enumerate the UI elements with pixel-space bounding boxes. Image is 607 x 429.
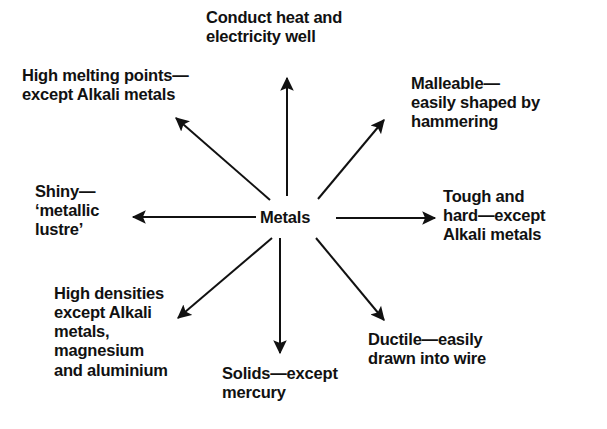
center-node-metals: Metals bbox=[256, 207, 314, 228]
node-label-shiny: Shiny— ‘metallic lustre’ bbox=[35, 182, 99, 239]
node-label-solids: Solids—except mercury bbox=[222, 364, 338, 402]
node-label-conduct: Conduct heat and electricity well bbox=[206, 8, 342, 46]
arrow-ductile bbox=[316, 238, 384, 320]
arrow-melting-points bbox=[176, 118, 270, 200]
diagram-canvas: Conduct heat and electricity well High m… bbox=[0, 0, 607, 429]
node-label-ductile: Ductile—easily drawn into wire bbox=[368, 330, 486, 368]
arrow-high-densities bbox=[178, 238, 272, 318]
node-label-malleable: Malleable— easily shaped by hammering bbox=[411, 74, 607, 131]
arrow-malleable bbox=[318, 120, 384, 199]
node-label-melting-points: High melting points— except Alkali metal… bbox=[22, 66, 189, 104]
node-label-high-densities: High densities except Alkali metals, mag… bbox=[54, 284, 168, 380]
node-label-tough-hard: Tough and hard—except Alkali metals bbox=[443, 187, 545, 244]
